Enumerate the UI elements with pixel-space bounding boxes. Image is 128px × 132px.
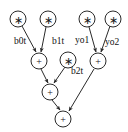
plus-icon: + [47, 87, 53, 98]
node-multiply-yo1[interactable]: ∗ [79, 11, 95, 27]
node-add-right[interactable]: + [90, 53, 106, 69]
node-add-middle[interactable]: + [42, 84, 58, 100]
plus-icon: + [60, 114, 66, 125]
multiply-icon: ∗ [14, 14, 23, 26]
node-multiply-b1[interactable]: ∗ [40, 11, 56, 27]
edge-label-yo2: yo2 [105, 37, 120, 47]
edge-addmid-to-addbottom-line [52, 100, 60, 110]
multiply-icon: ∗ [44, 14, 53, 26]
node-group: ∗ ∗ ∗ ∗ ∗ + [10, 11, 121, 127]
multiply-icon: ∗ [109, 14, 118, 26]
node-add-bottom[interactable]: + [55, 111, 71, 127]
node-multiply-b2[interactable]: ∗ [60, 52, 76, 68]
edge-b2t-line [54, 67, 65, 83]
node-add-left[interactable]: + [31, 53, 47, 69]
computation-graph-diagram: b0t b1t yo1 yo2 b2t ∗ ∗ ∗ ∗ [0, 0, 128, 132]
edge-label-yo1: yo1 [75, 35, 90, 45]
edge-label-b1t: b1t [52, 36, 65, 46]
multiply-icon: ∗ [83, 14, 92, 26]
plus-icon: + [95, 56, 101, 67]
node-multiply-yo2[interactable]: ∗ [105, 11, 121, 27]
node-multiply-b0[interactable]: ∗ [10, 11, 26, 27]
edge-yo1-line [89, 27, 96, 52]
edge-b1t-line [41, 27, 46, 52]
edge-label-b0t: b0t [14, 36, 27, 46]
multiply-icon: ∗ [64, 55, 73, 67]
graph-canvas: b0t b1t yo1 yo2 b2t ∗ ∗ ∗ ∗ [0, 0, 128, 132]
plus-icon: + [36, 56, 42, 67]
edge-addleft-to-addmid-line [41, 69, 48, 83]
edge-label-b2t: b2t [71, 66, 84, 76]
